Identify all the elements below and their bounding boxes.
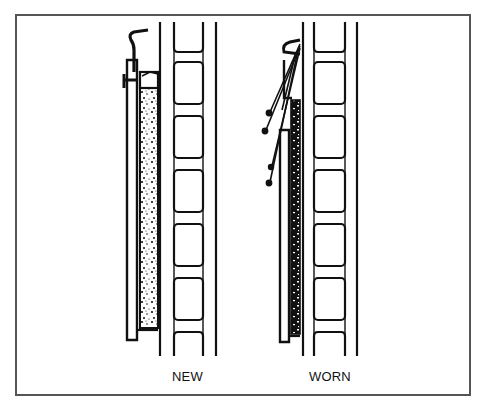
new-panel [124,22,216,356]
new-shoe-plate [127,60,137,340]
new-lining [140,88,158,328]
worn-shoe-plate [280,130,289,342]
new-drum [160,22,216,356]
worn-panel [262,22,357,356]
worn-drum [303,22,357,356]
label-new: NEW [172,369,203,384]
worn-lining [291,100,300,334]
new-hook [130,30,148,72]
brake-shoe-diagram [0,0,483,403]
label-worn: WORN [309,369,351,384]
